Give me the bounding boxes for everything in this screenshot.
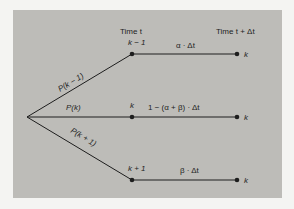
node-middle-t-dt <box>235 115 240 120</box>
state-label-middle: k <box>130 101 135 110</box>
header-time-t: Time t <box>120 27 143 36</box>
state-label-top: k − 1 <box>128 38 146 47</box>
transition-label-top: α · Δt <box>176 41 196 50</box>
node-bottom-t <box>130 178 135 183</box>
state-label-bottom: k + 1 <box>128 164 146 173</box>
transition-label-middle: 1 − (α + β) · Δt <box>148 103 200 112</box>
end-state-middle: k <box>244 113 249 122</box>
prob-label-middle: P(k) <box>66 103 81 112</box>
node-middle-t <box>130 115 135 120</box>
node-top-t <box>130 52 135 57</box>
branch-line-bottom <box>27 117 132 180</box>
end-state-top: k <box>244 50 249 59</box>
end-state-bottom: k <box>244 176 249 185</box>
node-top-t-dt <box>235 52 240 57</box>
state-transition-diagram: Time t Time t + Δt k − 1 k k + 1 α · Δt … <box>0 0 294 209</box>
transition-label-bottom: β · Δt <box>180 166 200 175</box>
node-bottom-t-dt <box>235 178 240 183</box>
header-time-t-dt: Time t + Δt <box>216 27 255 36</box>
